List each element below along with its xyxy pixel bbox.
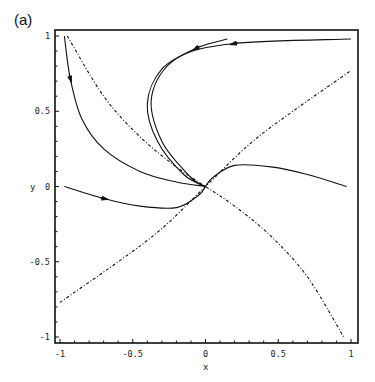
trajectory-left-top <box>64 36 205 187</box>
x-tick-label: 0 <box>203 349 208 359</box>
y-tick-label: -1 <box>40 332 50 342</box>
axis-ticks <box>55 36 351 343</box>
trajectory-left-mid <box>64 187 205 209</box>
x-axis-label: x <box>203 362 209 372</box>
x-tick-label: 0.5 <box>271 349 286 359</box>
y-axis-label: y <box>30 182 36 192</box>
x-tick-label: -1 <box>55 349 65 359</box>
trajectories <box>60 36 351 337</box>
plot-frame <box>55 30 358 343</box>
trajectory-right-top <box>206 165 347 187</box>
y-tick-label: 0.5 <box>35 106 50 116</box>
y-tick-label: -0.5 <box>30 257 50 267</box>
y-tick-label: 0 <box>45 182 50 192</box>
y-tick-label: 1 <box>45 31 50 41</box>
x-tick-label: 1 <box>348 349 353 359</box>
trajectory-top-outer <box>151 39 351 187</box>
trajectory-top-inner <box>147 39 227 187</box>
x-tick-label: -0.5 <box>123 349 143 359</box>
phase-portrait-plot: -1-0.500.51-1-0.500.51 x y <box>0 0 375 382</box>
flow-arrow-icon <box>100 198 106 199</box>
tick-labels: -1-0.500.51-1-0.500.51 <box>30 31 354 359</box>
